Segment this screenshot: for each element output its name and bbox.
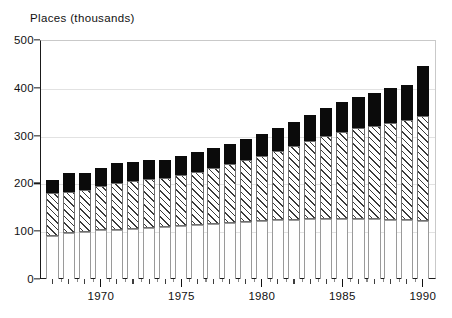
bar-segment-bottom <box>240 222 252 279</box>
x-tick-label: 1975 <box>168 290 195 302</box>
bar-segment-middle <box>352 128 364 219</box>
bar <box>352 40 364 279</box>
bar <box>401 40 413 279</box>
bar-segment-bottom <box>256 221 268 279</box>
x-tick-major <box>100 279 101 287</box>
bar-segment-middle <box>336 132 348 219</box>
bar <box>95 40 107 279</box>
x-tick-minor <box>205 279 206 282</box>
x-tick-minor <box>366 279 367 282</box>
x-tick-label: 1970 <box>87 290 114 302</box>
bar-segment-bottom <box>79 232 91 279</box>
x-tick-minor <box>254 279 255 282</box>
bar-segment-middle <box>143 179 155 228</box>
bar-segment-middle <box>256 156 268 221</box>
bar-segment-top <box>175 156 187 175</box>
x-tick-label: 1980 <box>248 290 275 302</box>
x-tick-minor <box>173 279 174 282</box>
bar-segment-bottom <box>368 219 380 279</box>
y-tick-mark <box>34 39 40 40</box>
bar-segment-bottom <box>304 219 316 279</box>
x-tick-minor <box>277 279 278 284</box>
bar-segment-top <box>288 122 300 146</box>
bar <box>417 40 429 279</box>
bar <box>127 40 139 279</box>
bar-segment-bottom <box>143 228 155 279</box>
bar-segment-top <box>384 88 396 122</box>
bars-layer <box>40 40 436 279</box>
bar <box>159 40 171 279</box>
x-tick-minor <box>350 279 351 282</box>
x-tick-minor <box>165 279 166 284</box>
x-tick-minor <box>302 279 303 282</box>
bar <box>207 40 219 279</box>
x-tick-label: 1985 <box>329 290 356 302</box>
x-tick-major <box>342 279 343 287</box>
bar <box>368 40 380 279</box>
x-tick-minor <box>383 279 384 282</box>
bar-segment-top <box>79 173 91 190</box>
x-tick-minor <box>222 279 223 282</box>
bar-segment-middle <box>127 181 139 229</box>
bar-segment-top <box>352 97 364 128</box>
bar <box>304 40 316 279</box>
bar-segment-bottom <box>320 219 332 279</box>
bar-segment-top <box>320 108 332 136</box>
bar-segment-bottom <box>352 219 364 279</box>
bar-segment-top <box>46 180 58 193</box>
x-tick-minor <box>399 279 400 282</box>
bar-segment-top <box>127 162 139 181</box>
bar-segment-top <box>95 168 107 186</box>
bar-segment-bottom <box>95 230 107 279</box>
bar-segment-bottom <box>384 220 396 279</box>
bar-segment-middle <box>240 160 252 221</box>
bar-segment-top <box>304 115 316 141</box>
bar <box>272 40 284 279</box>
bar-segment-top <box>207 148 219 168</box>
x-tick-minor <box>109 279 110 282</box>
bar-segment-middle <box>417 116 429 220</box>
bar <box>79 40 91 279</box>
bar-segment-middle <box>224 164 236 222</box>
y-tick-label: 100 <box>14 225 34 237</box>
x-tick-minor <box>286 279 287 282</box>
chart-title: Places (thousands) <box>30 12 135 24</box>
x-tick-minor <box>245 279 246 284</box>
bar-segment-bottom <box>159 227 171 279</box>
x-tick-minor <box>238 279 239 282</box>
x-axis: 19701975198019851990 <box>40 279 436 318</box>
y-tick-label: 0 <box>27 273 34 285</box>
bar-segment-middle <box>207 168 219 224</box>
x-tick-minor <box>157 279 158 282</box>
y-tick-label: 400 <box>14 82 34 94</box>
x-tick-minor <box>374 279 375 284</box>
x-tick-minor <box>270 279 271 282</box>
bar-segment-bottom <box>401 220 413 279</box>
x-tick-label: 1990 <box>409 290 436 302</box>
bar <box>288 40 300 279</box>
bar-segment-top <box>256 134 268 156</box>
bar <box>240 40 252 279</box>
bar-segment-bottom <box>336 219 348 279</box>
bar-segment-top <box>111 163 123 183</box>
bar-segment-top <box>368 93 380 126</box>
x-tick-minor <box>125 279 126 282</box>
bar-segment-bottom <box>417 221 429 279</box>
y-tick-mark <box>34 135 40 136</box>
bar <box>336 40 348 279</box>
bar-segment-middle <box>304 141 316 219</box>
bar-segment-middle <box>159 178 171 228</box>
y-tick-mark <box>34 278 40 279</box>
bar-segment-top <box>401 85 413 120</box>
bar-segment-bottom <box>175 226 187 279</box>
x-tick-minor <box>334 279 335 282</box>
x-tick-minor <box>77 279 78 282</box>
bar <box>63 40 75 279</box>
bar-segment-top <box>191 152 203 172</box>
bar <box>384 40 396 279</box>
bar-segment-middle <box>368 126 380 220</box>
x-tick-minor <box>149 279 150 284</box>
x-tick-minor <box>68 279 69 284</box>
bar-segment-bottom <box>127 229 139 279</box>
x-tick-minor <box>358 279 359 284</box>
